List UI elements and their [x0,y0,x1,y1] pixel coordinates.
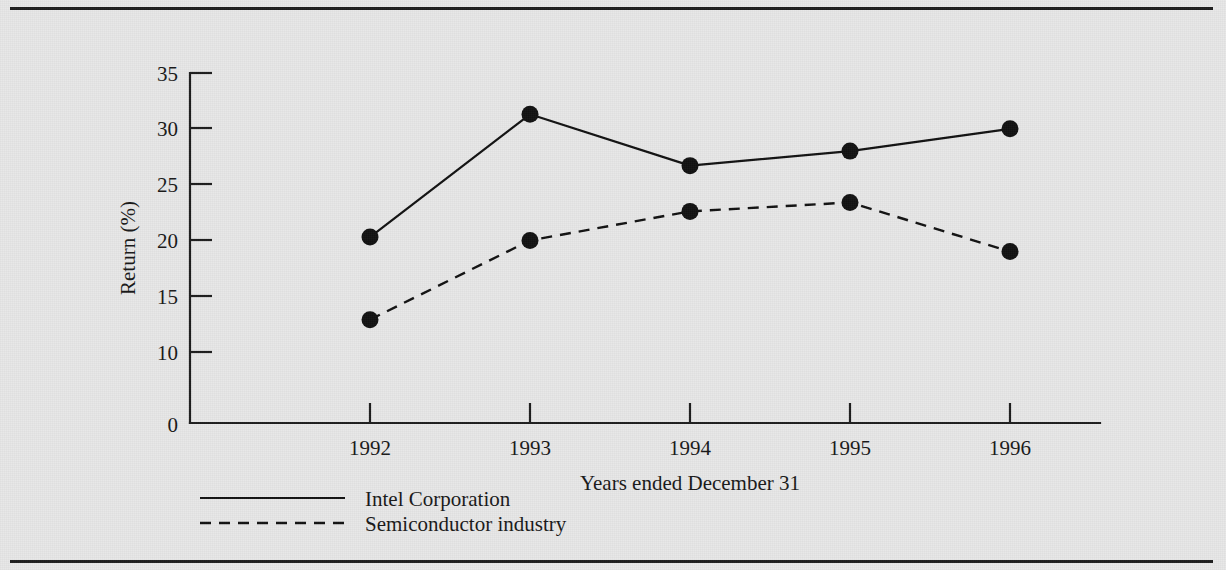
data-point [522,106,539,123]
data-point [362,311,379,328]
x-tick-label-1996: 1996 [989,436,1031,460]
x-tick-label-1993: 1993 [509,436,551,460]
legend-label-intel: Intel Corporation [365,487,511,511]
x-axis-title: Years ended December 31 [580,471,800,495]
y-tick-label-35: 35 [157,62,178,86]
data-point [682,157,699,174]
y-tick-label-30: 30 [157,117,178,141]
y-tick-label-25: 25 [157,173,178,197]
y-tick-label-10: 10 [157,341,178,365]
data-point [1002,120,1019,137]
legend-label-semiconductor: Semiconductor industry [365,512,567,536]
data-point [682,203,699,220]
y-tick-label-0: 0 [168,413,179,437]
line-chart: 35 30 25 20 15 10 0 1992 1993 1994 1995 … [0,0,1226,570]
y-axis-title: Return (%) [116,201,140,295]
chart-svg: 35 30 25 20 15 10 0 1992 1993 1994 1995 … [0,0,1226,570]
y-tick-marks [190,73,212,352]
x-tick-label-1992: 1992 [349,436,391,460]
data-point [362,229,379,246]
y-tick-label-20: 20 [157,229,178,253]
data-point [522,232,539,249]
series-markers-semiconductor [362,194,1019,328]
data-point [842,194,859,211]
x-tick-label-1994: 1994 [669,436,712,460]
data-point [842,143,859,160]
x-tick-marks [370,403,1010,423]
data-point [1002,243,1019,260]
series-line-semiconductor [370,202,1010,319]
figure-page: 35 30 25 20 15 10 0 1992 1993 1994 1995 … [0,0,1226,570]
legend: Intel Corporation Semiconductor industry [200,487,567,536]
x-tick-label-1995: 1995 [829,436,871,460]
y-tick-label-15: 15 [157,285,178,309]
